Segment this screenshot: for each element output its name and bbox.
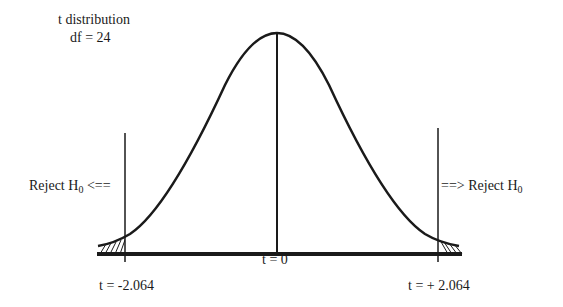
tick-label-left: t = -2.064 — [99, 278, 154, 294]
degrees-of-freedom-label: df = 24 — [70, 29, 111, 46]
reject-left-label: Reject H0 <== — [29, 178, 111, 195]
tick-label-right: t = + 2.064 — [408, 278, 470, 294]
tick-label-center: t = 0 — [262, 252, 288, 268]
density-curve — [98, 33, 459, 246]
chart-title: t distribution — [58, 11, 130, 28]
reject-right-label: ==> Reject H0 — [441, 178, 523, 195]
